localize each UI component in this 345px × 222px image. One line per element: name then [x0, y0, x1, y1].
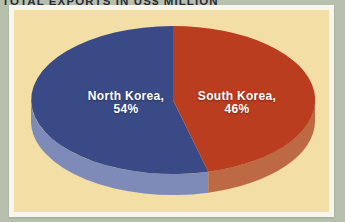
- page: TOTAL EXPORTS IN US$ MILLION North Korea…: [0, 0, 345, 222]
- pie-label-percent: 54%: [88, 103, 164, 116]
- chart-frame: [9, 5, 334, 217]
- pie-label-north-korea: North Korea, 54%: [88, 90, 164, 116]
- chart-panel: [14, 10, 329, 212]
- pie-label-percent: 46%: [198, 103, 276, 116]
- pie-label-south-korea: South Korea, 46%: [198, 90, 276, 116]
